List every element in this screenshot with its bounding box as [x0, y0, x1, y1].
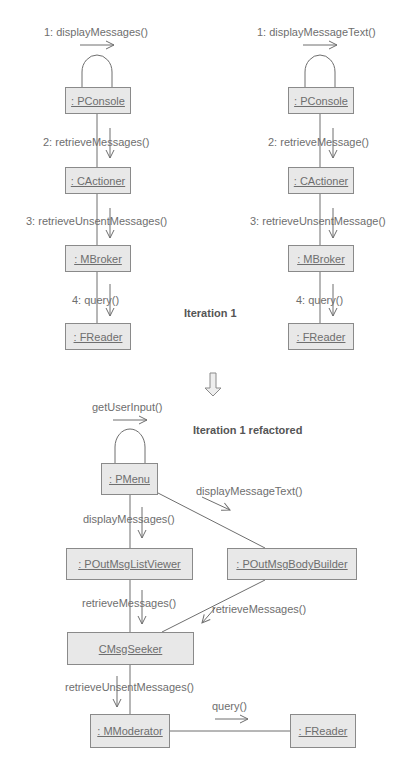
left-mbroker-object: : MBroker	[65, 245, 131, 272]
msg-get-user-input: getUserInput()	[92, 401, 162, 413]
msg-query: query()	[212, 700, 247, 712]
iteration-1-heading: Iteration 1	[184, 307, 237, 319]
right-msg-4: 4: query()	[296, 294, 343, 306]
poutmsglistviewer-object: : POutMsgListViewer	[66, 548, 193, 580]
self-loop-pmenu	[115, 429, 145, 463]
left-msg-3: 3: retrieveUnsentMessages()	[26, 215, 167, 227]
left-cactioner-object: : CActioner	[65, 167, 131, 194]
right-msg-2: 2: retrieveMessage()	[268, 136, 369, 148]
left-msg-1: 1: displayMessages()	[44, 26, 148, 38]
right-msg-3: 3: retrieveUnsentMessage()	[250, 215, 386, 227]
pmenu-object: : PMenu	[101, 463, 158, 495]
mmoderator-object: : MModerator	[90, 714, 170, 748]
msg-builder-retrieve-messages: retrieveMessages()	[212, 603, 306, 615]
self-loop-left	[82, 55, 112, 87]
right-cactioner-object: : CActioner	[288, 167, 354, 194]
left-pconsole-object: : PConsole	[65, 87, 131, 114]
right-mbroker-object: : MBroker	[288, 245, 354, 272]
right-msg-1: 1: displayMessageText()	[257, 26, 376, 38]
right-pconsole-object: : PConsole	[288, 87, 354, 114]
msg-display-messages: displayMessages()	[83, 513, 175, 525]
self-loop-right	[305, 55, 335, 87]
left-msg-2: 2: retrieveMessages()	[43, 136, 149, 148]
msg-retrieve-unsent-messages: retrieveUnsentMessages()	[65, 681, 194, 693]
iteration-1-refactored-heading: Iteration 1 refactored	[193, 424, 302, 436]
poutmsgbodybuilder-object: : POutMsgBodyBuilder	[227, 548, 357, 580]
msg-display-message-text: displayMessageText()	[196, 485, 302, 497]
right-freader-object: : FReader	[288, 323, 354, 350]
left-msg-4: 4: query()	[72, 294, 119, 306]
freader-object: : FReader	[290, 714, 356, 748]
msg-list-retrieve-messages: retrieveMessages()	[82, 597, 176, 609]
diagram-lines	[0, 0, 401, 770]
cmsgseeker-object: CMsgSeeker	[67, 632, 194, 665]
down-arrow	[205, 373, 221, 396]
left-freader-object: : FReader	[65, 323, 131, 350]
